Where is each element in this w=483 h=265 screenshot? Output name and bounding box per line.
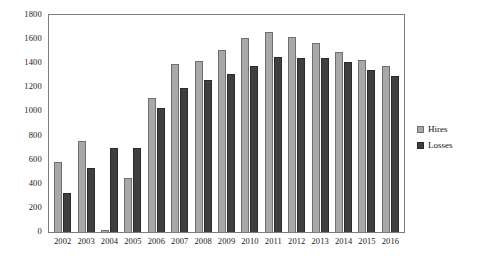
bar-group-2006: [145, 15, 168, 232]
bar-hires-2008[interactable]: [195, 61, 203, 232]
y-axis-tick-label: 1600: [24, 33, 42, 43]
bar-hires-2012[interactable]: [288, 37, 296, 232]
bar-hires-2004[interactable]: [101, 230, 109, 232]
bar-group-2014: [332, 15, 355, 232]
bar-hires-2002[interactable]: [54, 162, 62, 232]
x-axis-tick-label: 2014: [332, 236, 355, 246]
x-axis-tick-label: 2011: [262, 236, 285, 246]
legend-item-hires[interactable]: Hires: [417, 124, 453, 134]
x-axis-tick-label: 2015: [355, 236, 378, 246]
bar-hires-2013[interactable]: [312, 43, 320, 232]
bar-losses-2010[interactable]: [250, 66, 258, 232]
bar-losses-2008[interactable]: [204, 80, 212, 233]
bar-losses-2007[interactable]: [180, 88, 188, 232]
bar-hires-2009[interactable]: [218, 50, 226, 232]
bar-losses-2003[interactable]: [87, 168, 95, 232]
bar-group-2013: [308, 15, 331, 232]
bar-losses-2006[interactable]: [157, 108, 165, 232]
bar-losses-2005[interactable]: [133, 148, 141, 232]
legend-item-losses[interactable]: Losses: [417, 140, 453, 150]
x-axis-tick-label: 2002: [51, 236, 74, 246]
bar-group-2007: [168, 15, 191, 232]
bar-group-2005: [121, 15, 144, 232]
bar-losses-2014[interactable]: [344, 62, 352, 232]
legend-swatch-icon: [417, 126, 424, 133]
bar-losses-2013[interactable]: [321, 58, 329, 232]
bar-losses-2002[interactable]: [63, 193, 71, 232]
bar-hires-2016[interactable]: [382, 66, 390, 232]
bar-losses-2012[interactable]: [297, 58, 305, 232]
bar-hires-2011[interactable]: [265, 32, 273, 232]
bar-losses-2009[interactable]: [227, 74, 235, 232]
y-axis-tick-label: 1800: [24, 9, 42, 19]
y-axis-tick-label: 1200: [24, 81, 42, 91]
bar-group-2004: [98, 15, 121, 232]
bar-group-2002: [51, 15, 74, 232]
bar-hires-2015[interactable]: [358, 60, 366, 232]
x-axis-tick-label: 2003: [74, 236, 97, 246]
y-axis-tick-label: 600: [29, 154, 42, 164]
x-axis-tick-label: 2013: [308, 236, 331, 246]
bar-losses-2015[interactable]: [367, 70, 375, 232]
y-axis-tick-label: 1000: [24, 105, 42, 115]
x-axis-tick-label: 2010: [238, 236, 261, 246]
bar-hires-2006[interactable]: [148, 98, 156, 232]
x-axis-tick-label: 2016: [379, 236, 402, 246]
x-axis-tick-label: 2009: [215, 236, 238, 246]
y-axis-tick-label: 800: [29, 130, 42, 140]
x-axis-tick-label: 2006: [145, 236, 168, 246]
x-axis-tick-label: 2007: [168, 236, 191, 246]
bar-chart-figure: 180016001400120010008006004002000 200220…: [0, 0, 483, 265]
bar-losses-2004[interactable]: [110, 148, 118, 232]
bar-hires-2010[interactable]: [241, 38, 249, 232]
y-axis-tick-label: 400: [29, 178, 42, 188]
bar-group-2015: [355, 15, 378, 232]
bar-hires-2007[interactable]: [171, 64, 179, 232]
x-axis-tick-label: 2008: [191, 236, 214, 246]
x-axis: 2002200320042005200620072008200920102011…: [49, 236, 404, 246]
bar-losses-2011[interactable]: [274, 57, 282, 232]
bar-losses-2016[interactable]: [391, 76, 399, 232]
bar-group-2012: [285, 15, 308, 232]
bar-group-2016: [379, 15, 402, 232]
y-axis: 180016001400120010008006004002000: [0, 14, 46, 233]
bar-group-2003: [74, 15, 97, 232]
bar-group-2011: [262, 15, 285, 232]
legend-label: Hires: [428, 124, 448, 134]
y-axis-tick-label: 0: [38, 226, 42, 236]
y-axis-tick-label: 200: [29, 202, 42, 212]
bar-hires-2003[interactable]: [78, 141, 86, 232]
bar-group-2010: [238, 15, 261, 232]
bar-group-2009: [215, 15, 238, 232]
legend-swatch-icon: [417, 142, 424, 149]
x-axis-tick-label: 2005: [121, 236, 144, 246]
bar-hires-2005[interactable]: [124, 178, 132, 232]
x-axis-tick-label: 2012: [285, 236, 308, 246]
legend-label: Losses: [428, 140, 453, 150]
x-axis-tick-label: 2004: [98, 236, 121, 246]
bar-group-2008: [191, 15, 214, 232]
y-axis-tick-label: 1400: [24, 57, 42, 67]
bar-hires-2014[interactable]: [335, 52, 343, 232]
plot-area: [49, 15, 404, 232]
chart-legend: HiresLosses: [417, 124, 453, 150]
